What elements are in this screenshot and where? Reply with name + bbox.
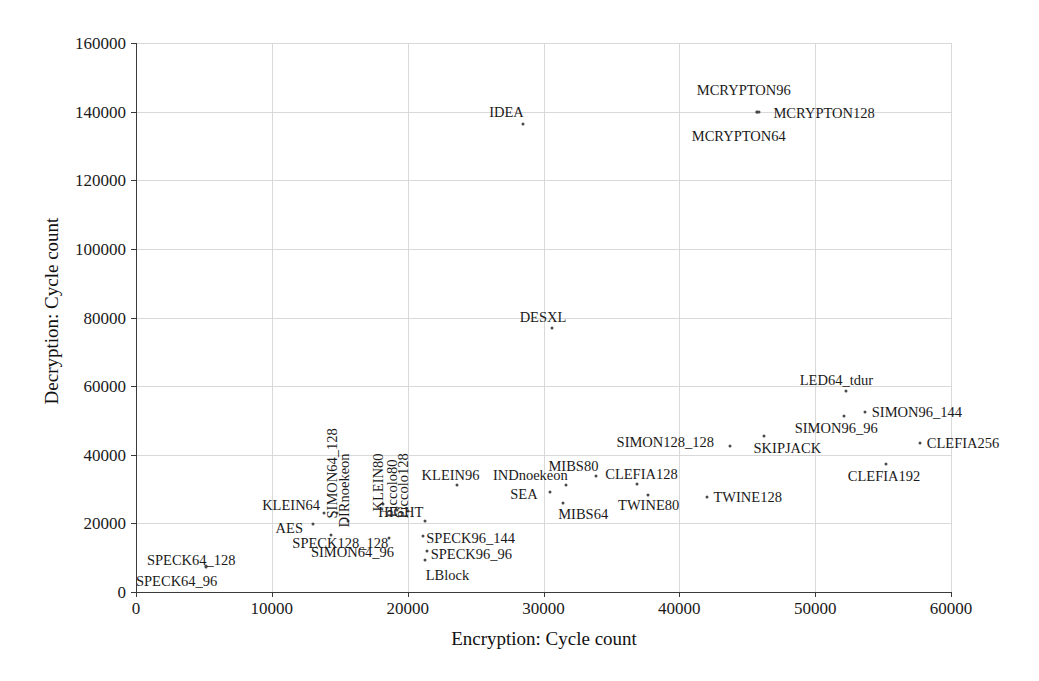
x-tick-mark	[679, 592, 680, 597]
data-point[interactable]	[863, 410, 866, 413]
data-point-label: KLEIN80	[370, 454, 385, 512]
data-point-label: LED64_tdur	[800, 373, 873, 388]
data-point-label: MIBS64	[558, 507, 608, 522]
x-tick-mark	[272, 592, 273, 597]
scatter-plot-figure: SPECK64_96SPECK64_128AESKLEIN64SIMON64_9…	[0, 0, 1039, 681]
data-point[interactable]	[423, 558, 426, 561]
y-axis-line	[136, 43, 137, 593]
data-point-label: SIMON96_96	[795, 421, 878, 436]
data-point[interactable]	[758, 110, 761, 113]
y-tick-mark	[131, 318, 136, 319]
y-axis-title: Decryption: Cycle count	[41, 31, 63, 591]
x-tick-label: 40000	[658, 600, 701, 617]
data-point-label: KLEIN64	[262, 498, 320, 513]
data-point-label: CLEFIA256	[927, 436, 1000, 451]
gridline-vertical	[679, 43, 680, 592]
data-point-label: DESXL	[520, 310, 567, 325]
data-point[interactable]	[636, 482, 639, 485]
data-point[interactable]	[918, 442, 921, 445]
y-tick-mark	[131, 43, 136, 44]
data-point-label: MCRYPTON64	[692, 129, 786, 144]
data-point[interactable]	[550, 327, 553, 330]
y-tick-label-group: 0200004000060000800001000001200001400001…	[0, 0, 126, 681]
data-point-label: CLEFIA128	[605, 467, 678, 482]
x-tick-label: 50000	[794, 600, 837, 617]
data-point[interactable]	[844, 389, 847, 392]
data-point[interactable]	[311, 523, 314, 526]
x-tick-mark	[544, 592, 545, 597]
data-point-label: SIMON128_128	[617, 435, 714, 450]
x-axis-title: Encryption: Cycle count	[136, 628, 952, 650]
x-tick-label: 20000	[386, 600, 429, 617]
data-point[interactable]	[728, 444, 731, 447]
data-point-label: HIGHT	[378, 505, 423, 520]
y-tick-label: 160000	[75, 35, 126, 52]
y-tick-label: 100000	[75, 240, 126, 257]
x-tick-label: 0	[132, 600, 141, 617]
data-point-label: AES	[276, 521, 303, 536]
y-tick-mark	[131, 523, 136, 524]
x-tick-mark	[408, 592, 409, 597]
y-tick-label: 20000	[84, 515, 127, 532]
x-tick-label: 30000	[522, 600, 565, 617]
data-point-label: SPECK128_128	[292, 536, 388, 551]
data-point-label: MCRYPTON128	[773, 106, 874, 121]
data-point-label: SIMON96_144	[872, 405, 962, 420]
y-tick-label: 60000	[84, 378, 127, 395]
y-tick-label: 0	[118, 584, 127, 601]
y-tick-mark	[131, 386, 136, 387]
data-point[interactable]	[884, 462, 887, 465]
y-tick-mark	[131, 455, 136, 456]
x-tick-mark	[815, 592, 816, 597]
y-tick-mark	[131, 249, 136, 250]
data-point[interactable]	[388, 536, 391, 539]
y-tick-mark	[131, 112, 136, 113]
data-point-label: IDEA	[489, 105, 524, 120]
data-point[interactable]	[705, 495, 708, 498]
data-point-label: LBlock	[426, 568, 470, 583]
y-tick-label: 140000	[75, 103, 126, 120]
data-point[interactable]	[762, 434, 765, 437]
y-tick-label: 40000	[84, 446, 127, 463]
data-point[interactable]	[522, 122, 525, 125]
data-point-label: SEA	[510, 487, 537, 502]
gridline-vertical	[951, 43, 952, 592]
gridline-vertical	[815, 43, 816, 592]
data-point[interactable]	[425, 549, 428, 552]
data-point-label: SKIPJACK	[754, 441, 822, 456]
y-tick-mark	[131, 180, 136, 181]
data-point[interactable]	[564, 483, 567, 486]
data-point-label: SPECK64_96	[136, 574, 217, 589]
x-tick-mark	[136, 592, 137, 597]
plot-area: SPECK64_96SPECK64_128AESKLEIN64SIMON64_9…	[136, 43, 951, 592]
x-tick-label: 60000	[930, 600, 973, 617]
x-tick-mark	[951, 592, 952, 597]
y-tick-label: 120000	[75, 172, 126, 189]
y-tick-label: 80000	[84, 309, 127, 326]
data-point-label: SPECK64_128	[147, 553, 236, 568]
data-point-label: SPECK96_96	[431, 547, 512, 562]
data-point[interactable]	[647, 493, 650, 496]
data-point-label: MCRYPTON96	[697, 83, 791, 98]
data-point[interactable]	[422, 535, 425, 538]
data-point-label: TWINE128	[714, 490, 782, 505]
data-point-label: KLEIN96	[422, 468, 480, 483]
data-point-label: DIRnoekeon	[336, 453, 351, 527]
data-point[interactable]	[455, 483, 458, 486]
data-point[interactable]	[424, 519, 427, 522]
data-point-label: MIBS80	[548, 459, 598, 474]
data-point[interactable]	[549, 491, 552, 494]
data-point[interactable]	[562, 502, 565, 505]
data-point[interactable]	[842, 414, 845, 417]
data-point-label: SPECK96_144	[426, 531, 515, 546]
data-point-label: TWINE80	[618, 498, 679, 513]
data-point-label: CLEFIA192	[848, 469, 921, 484]
data-point[interactable]	[595, 475, 598, 478]
x-tick-label: 10000	[251, 600, 294, 617]
